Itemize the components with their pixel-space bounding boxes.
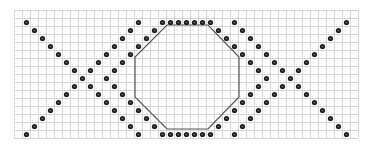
stitch-dot-center [274, 62, 276, 64]
stitch-dot-center [138, 110, 140, 112]
stitch-dot-center [258, 110, 260, 112]
stitch-dot-center [194, 22, 196, 24]
stitch-dot-center [34, 126, 36, 128]
stitch-dot-center [154, 30, 156, 32]
knitting-chart-diagram [0, 0, 378, 150]
stitch-dot-center [194, 134, 196, 136]
stitch-dot-center [138, 22, 140, 24]
stitch-dot-center [58, 54, 60, 56]
stitch-dot-center [210, 22, 212, 24]
stitch-dot-center [242, 30, 244, 32]
stitch-dot-center [170, 22, 172, 24]
stitch-dot-center [306, 94, 308, 96]
stitch-dot-center [234, 134, 236, 136]
stitch-dot-center [282, 70, 284, 72]
stitch-dot-center [122, 38, 124, 40]
stitch-dot-center [130, 102, 132, 104]
stitch-dot-center [338, 126, 340, 128]
stitch-dot-center [42, 38, 44, 40]
stitch-dot-center [106, 102, 108, 104]
stitch-dot-center [170, 134, 172, 136]
stitch-dot-center [26, 134, 28, 136]
stitch-dot-center [242, 54, 244, 56]
stitch-dot-center [138, 46, 140, 48]
stitch-dot-center [98, 94, 100, 96]
stitch-dot-center [114, 70, 116, 72]
stitch-dot-center [290, 78, 292, 80]
stitch-dot-center [234, 46, 236, 48]
stitch-dot-center [130, 126, 132, 128]
stitch-dot-center [42, 118, 44, 120]
stitch-dot-center [330, 118, 332, 120]
stitch-dot-center [66, 94, 68, 96]
stitch-dot-center [322, 46, 324, 48]
stitch-dot-center [122, 94, 124, 96]
stitch-dot-center [346, 134, 348, 136]
stitch-dot-center [66, 62, 68, 64]
stitch-dot-center [130, 30, 132, 32]
stitch-dot-center [218, 126, 220, 128]
pattern-grid [0, 0, 378, 150]
stitch-dot-center [186, 134, 188, 136]
stitch-dot-center [138, 134, 140, 136]
stitch-dot-center [146, 118, 148, 120]
stitch-dot-center [266, 102, 268, 104]
stitch-dot-center [90, 86, 92, 88]
stitch-dot-center [258, 46, 260, 48]
stitch-dot-center [122, 118, 124, 120]
stitch-dot-center [114, 110, 116, 112]
stitch-dot-center [202, 134, 204, 136]
stitch-dot-center [178, 22, 180, 24]
stitch-dot-center [314, 102, 316, 104]
stitch-dot-center [34, 30, 36, 32]
stitch-dot-center [234, 22, 236, 24]
stitch-dot-center [314, 54, 316, 56]
stitch-dot-center [114, 86, 116, 88]
stitch-dot-center [106, 78, 108, 80]
stitch-dot-center [250, 118, 252, 120]
stitch-dot-center [298, 70, 300, 72]
stitch-dot-center [282, 86, 284, 88]
stitch-dot-center [250, 38, 252, 40]
stitch-dot-center [242, 126, 244, 128]
stitch-dot-center [122, 62, 124, 64]
stitch-dot-center [338, 30, 340, 32]
stitch-dot-center [218, 30, 220, 32]
stitch-dot-center [162, 134, 164, 136]
stitch-dot-center [226, 118, 228, 120]
stitch-dot-center [154, 126, 156, 128]
stitch-dot-center [98, 62, 100, 64]
stitch-dot-center [274, 94, 276, 96]
stitch-dot-center [162, 22, 164, 24]
stitch-dot-center [146, 38, 148, 40]
stitch-dot-center [90, 70, 92, 72]
stitch-dot-center [306, 62, 308, 64]
stitch-dot-center [74, 86, 76, 88]
stitch-dot-center [322, 110, 324, 112]
stitch-dot-center [202, 22, 204, 24]
stitch-dot-center [258, 86, 260, 88]
stitch-dot-center [106, 54, 108, 56]
stitch-dot-center [258, 70, 260, 72]
stitch-dot-center [26, 22, 28, 24]
stitch-dot-center [298, 86, 300, 88]
stitch-dot-center [186, 22, 188, 24]
stitch-dot-center [346, 22, 348, 24]
stitch-dot-center [82, 78, 84, 80]
stitch-dot-center [330, 38, 332, 40]
stitch-dot-center [50, 46, 52, 48]
stitch-dot-center [58, 102, 60, 104]
stitch-dot-center [266, 78, 268, 80]
stitch-dot-center [234, 110, 236, 112]
stitch-dot-center [50, 110, 52, 112]
stitch-dot-center [250, 62, 252, 64]
stitch-dot-center [178, 134, 180, 136]
stitch-dot-center [130, 54, 132, 56]
stitch-dot-center [114, 46, 116, 48]
stitch-dot-center [266, 54, 268, 56]
stitch-dot-center [74, 70, 76, 72]
stitch-dot-center [210, 134, 212, 136]
stitch-dot-center [242, 102, 244, 104]
stitch-dot-center [250, 94, 252, 96]
stitch-dot-center [226, 38, 228, 40]
